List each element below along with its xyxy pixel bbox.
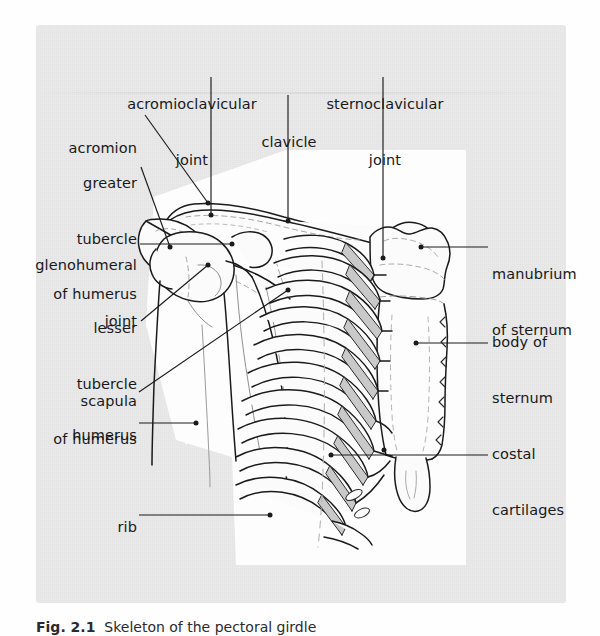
dot-body-of-sternum <box>414 341 419 346</box>
label-clavicle-text: clavicle <box>229 133 349 152</box>
label-costal-cartilages-line1: costal <box>492 445 600 464</box>
label-manubrium-line1: manubrium <box>492 265 600 284</box>
label-greater-tubercle-line1: greater <box>15 174 137 193</box>
label-glenohumeral-joint-line1: glenohumeral <box>8 256 137 275</box>
figure-page: acromioclavicular joint sternoclavicular… <box>0 0 600 636</box>
dot-costal-cartilages-secondary <box>382 448 387 453</box>
label-clavicle: clavicle <box>229 96 349 189</box>
dot-greater-tubercle <box>168 245 173 250</box>
label-humerus-text: humerus <box>15 426 137 445</box>
dot-clavicle <box>286 219 291 224</box>
label-body-of-sternum-line1: body of <box>492 333 600 352</box>
label-rib: rib <box>15 481 137 574</box>
label-body-of-sternum-line2: sternum <box>492 389 600 408</box>
label-humerus: humerus <box>15 389 137 482</box>
dot-glenohumeral-joint <box>230 242 235 247</box>
label-lesser-tubercle-line1: lesser <box>15 319 137 338</box>
label-costal-cartilages-line2: cartilages <box>492 501 600 520</box>
figure-caption-text: Skeleton of the pectoral girdle <box>95 619 316 635</box>
dot-humerus <box>194 421 199 426</box>
dot-rib <box>268 513 273 518</box>
dot-manubrium <box>419 245 424 250</box>
figure-caption-number: Fig. 2.1 <box>36 619 95 635</box>
dot-sternoclavicular-joint <box>381 256 386 261</box>
label-costal-cartilages: costal cartilages <box>492 408 600 556</box>
figure-caption: Fig. 2.1 Skeleton of the pectoral girdle <box>36 618 576 636</box>
dot-costal-cartilages <box>329 453 334 458</box>
dot-lesser-tubercle <box>206 263 211 268</box>
dot-scapula <box>286 288 291 293</box>
label-rib-text: rib <box>15 518 137 537</box>
dot-acromioclavicular-joint <box>209 213 214 218</box>
